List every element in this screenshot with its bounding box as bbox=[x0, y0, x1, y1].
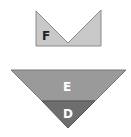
shape-e: E bbox=[11, 70, 126, 101]
label-e: E bbox=[63, 80, 71, 94]
shape-d: D bbox=[42, 101, 95, 128]
label-f: F bbox=[42, 29, 50, 43]
shapes-diagram: F E D bbox=[0, 0, 131, 137]
label-d: D bbox=[63, 107, 73, 121]
shape-f: F bbox=[36, 10, 101, 46]
